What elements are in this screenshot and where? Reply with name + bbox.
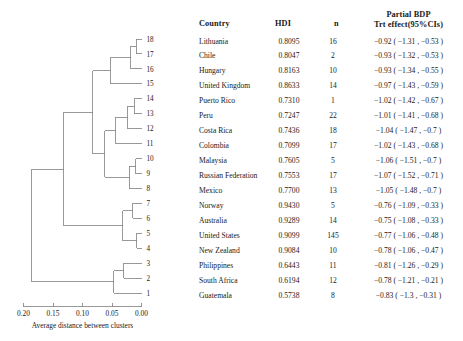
cell-hdi: 0.8047	[271, 51, 307, 60]
dendrogram-leaf-label: 18	[147, 36, 155, 44]
cell-hdi: 0.8633	[271, 81, 307, 90]
cell-country: Colombia	[199, 141, 229, 150]
cell-trt-effect: −0.75 ( −1.08 , −0.33 )	[354, 216, 463, 225]
results-table: Country HDI n Partial BDP Trt effect(95%…	[199, 0, 463, 341]
cell-country: Malaysia	[199, 156, 227, 165]
cell-trt-effect: −0.93 ( −1.34 , −0.55 )	[354, 66, 463, 75]
cell-hdi: 0.7247	[271, 111, 307, 120]
cell-n: 2	[321, 51, 345, 60]
cell-trt-effect: −0.76 ( −1.09 , −0.33 )	[354, 201, 463, 210]
cell-country: Hungary	[199, 66, 226, 75]
cell-country: Costa Rica	[199, 126, 232, 135]
cell-country: United Kingdom	[199, 81, 250, 90]
cell-n: 18	[321, 126, 345, 135]
cell-trt-effect: −0.78 ( −1.21 , −0.21 )	[354, 276, 463, 285]
cell-hdi: 0.7099	[271, 141, 307, 150]
cell-country: South Africa	[199, 276, 238, 285]
cell-n: 145	[321, 231, 345, 240]
cell-n: 5	[321, 201, 345, 210]
dendrogram-leaf-label: 10	[147, 155, 155, 163]
cell-n: 1	[321, 96, 345, 105]
cell-hdi: 0.7700	[271, 186, 307, 195]
cell-trt-effect: −1.06 ( −1.51 , −0.7 )	[354, 156, 463, 165]
x-axis-tick-label: 0.20	[17, 309, 30, 318]
cell-n: 11	[321, 261, 345, 270]
dendrogram-leaf-label: 12	[147, 125, 155, 133]
dendrogram-leaf-label: 3	[147, 260, 151, 268]
cell-hdi: 0.9084	[271, 246, 307, 255]
cell-country: Mexico	[199, 186, 222, 195]
cell-hdi: 0.9430	[271, 201, 307, 210]
cell-country: Russian Federation	[199, 171, 257, 180]
dendrogram-leaf-label: 8	[147, 185, 151, 193]
cell-hdi: 0.8163	[271, 66, 307, 75]
cell-n: 5	[321, 156, 345, 165]
column-header-trt-line1: Partial BDP	[354, 10, 463, 20]
dendrogram-leaf-label: 13	[147, 110, 155, 118]
cell-hdi: 0.6194	[271, 276, 307, 285]
cell-n: 17	[321, 141, 345, 150]
cell-hdi: 0.7436	[271, 126, 307, 135]
column-header-n: n	[334, 19, 339, 28]
dendrogram-leaf-label: 14	[147, 95, 155, 103]
cell-hdi: 0.9289	[271, 216, 307, 225]
cell-n: 10	[321, 66, 345, 75]
cell-country: Guatemala	[199, 291, 232, 300]
cell-country: United States	[199, 231, 240, 240]
dendrogram-leaf-label: 15	[147, 80, 155, 88]
x-axis-tick-label: 0.00	[135, 309, 148, 318]
cell-hdi: 0.7605	[271, 156, 307, 165]
cell-country: Chile	[199, 51, 215, 60]
dendrogram-leaf-label: 17	[147, 51, 155, 59]
dendrogram-leaf-label: 4	[147, 245, 151, 253]
cell-n: 16	[321, 37, 345, 46]
x-axis-tick-label: 0.05	[106, 309, 119, 318]
cell-country: Norway	[199, 201, 223, 210]
column-header-trt-line2: Trt effect(95%CIs)	[354, 20, 463, 30]
cell-n: 13	[321, 186, 345, 195]
cell-trt-effect: −1.02 ( −1.42 , −0.67 )	[354, 96, 463, 105]
cell-n: 14	[321, 81, 345, 90]
cell-country: Philippines	[199, 261, 233, 270]
cell-n: 8	[321, 291, 345, 300]
cell-country: Peru	[199, 111, 213, 120]
column-header-country: Country	[199, 19, 230, 28]
column-header-hdi: HDI	[275, 19, 291, 28]
cell-n: 14	[321, 216, 345, 225]
dendrogram-leaf-label: 1	[147, 290, 151, 298]
cell-trt-effect: −1.02 ( −1.43 , −0.68 )	[354, 141, 463, 150]
cell-hdi: 0.9099	[271, 231, 307, 240]
cell-hdi: 0.6443	[271, 261, 307, 270]
table-row: Guatemala0.57388−0.83 ( −1.3 , −0.31 )	[199, 291, 463, 308]
cell-hdi: 0.7553	[271, 171, 307, 180]
cell-country: Puerto Rico	[199, 96, 235, 105]
cell-trt-effect: −0.78 ( −1.06 , −0.47 )	[354, 246, 463, 255]
dendrogram-leaf-label: 9	[147, 170, 151, 178]
cell-trt-effect: −0.83 ( −1.3 , −0.31 )	[354, 291, 463, 300]
cell-trt-effect: −0.97 ( −1.43 , −0.59 )	[354, 81, 463, 90]
cell-hdi: 0.7310	[271, 96, 307, 105]
dendrogram-leaf-label: 11	[147, 140, 154, 148]
cell-n: 22	[321, 111, 345, 120]
cell-hdi: 0.5738	[271, 291, 307, 300]
cell-trt-effect: −0.81 ( −1.26 , −0.29 )	[354, 261, 463, 270]
cell-n: 12	[321, 276, 345, 285]
cell-country: Australia	[199, 216, 227, 225]
dendrogram-svg: 1817161514131211109876543210.200.150.100…	[0, 0, 200, 341]
dendrogram-leaf-label: 7	[147, 200, 151, 208]
dendrogram-leaf-label: 2	[147, 275, 151, 283]
cell-trt-effect: −1.05 ( −1.48 , −0.7 )	[354, 186, 463, 195]
x-axis-tick-label: 0.10	[76, 309, 89, 318]
cell-n: 10	[321, 246, 345, 255]
dendrogram-leaf-label: 16	[147, 66, 155, 74]
column-header-trt-effect: Partial BDP Trt effect(95%CIs)	[354, 10, 463, 29]
cell-trt-effect: −0.77 ( −1.06 , −0.48 )	[354, 231, 463, 240]
dendrogram-figure: 1817161514131211109876543210.200.150.100…	[0, 0, 463, 341]
cell-trt-effect: −1.01 ( −1.41 , −0.68 )	[354, 111, 463, 120]
dendrogram-panel: 1817161514131211109876543210.200.150.100…	[0, 0, 200, 341]
cell-trt-effect: −0.92 ( −1.31 , −0.53 )	[354, 37, 463, 46]
x-axis-tick-label: 0.15	[47, 309, 60, 318]
cell-hdi: 0.8095	[271, 37, 307, 46]
cell-trt-effect: −1.04 ( −1.47 , −0.7 )	[354, 126, 463, 135]
cell-trt-effect: −0.93 ( −1.32 , −0.53 )	[354, 51, 463, 60]
